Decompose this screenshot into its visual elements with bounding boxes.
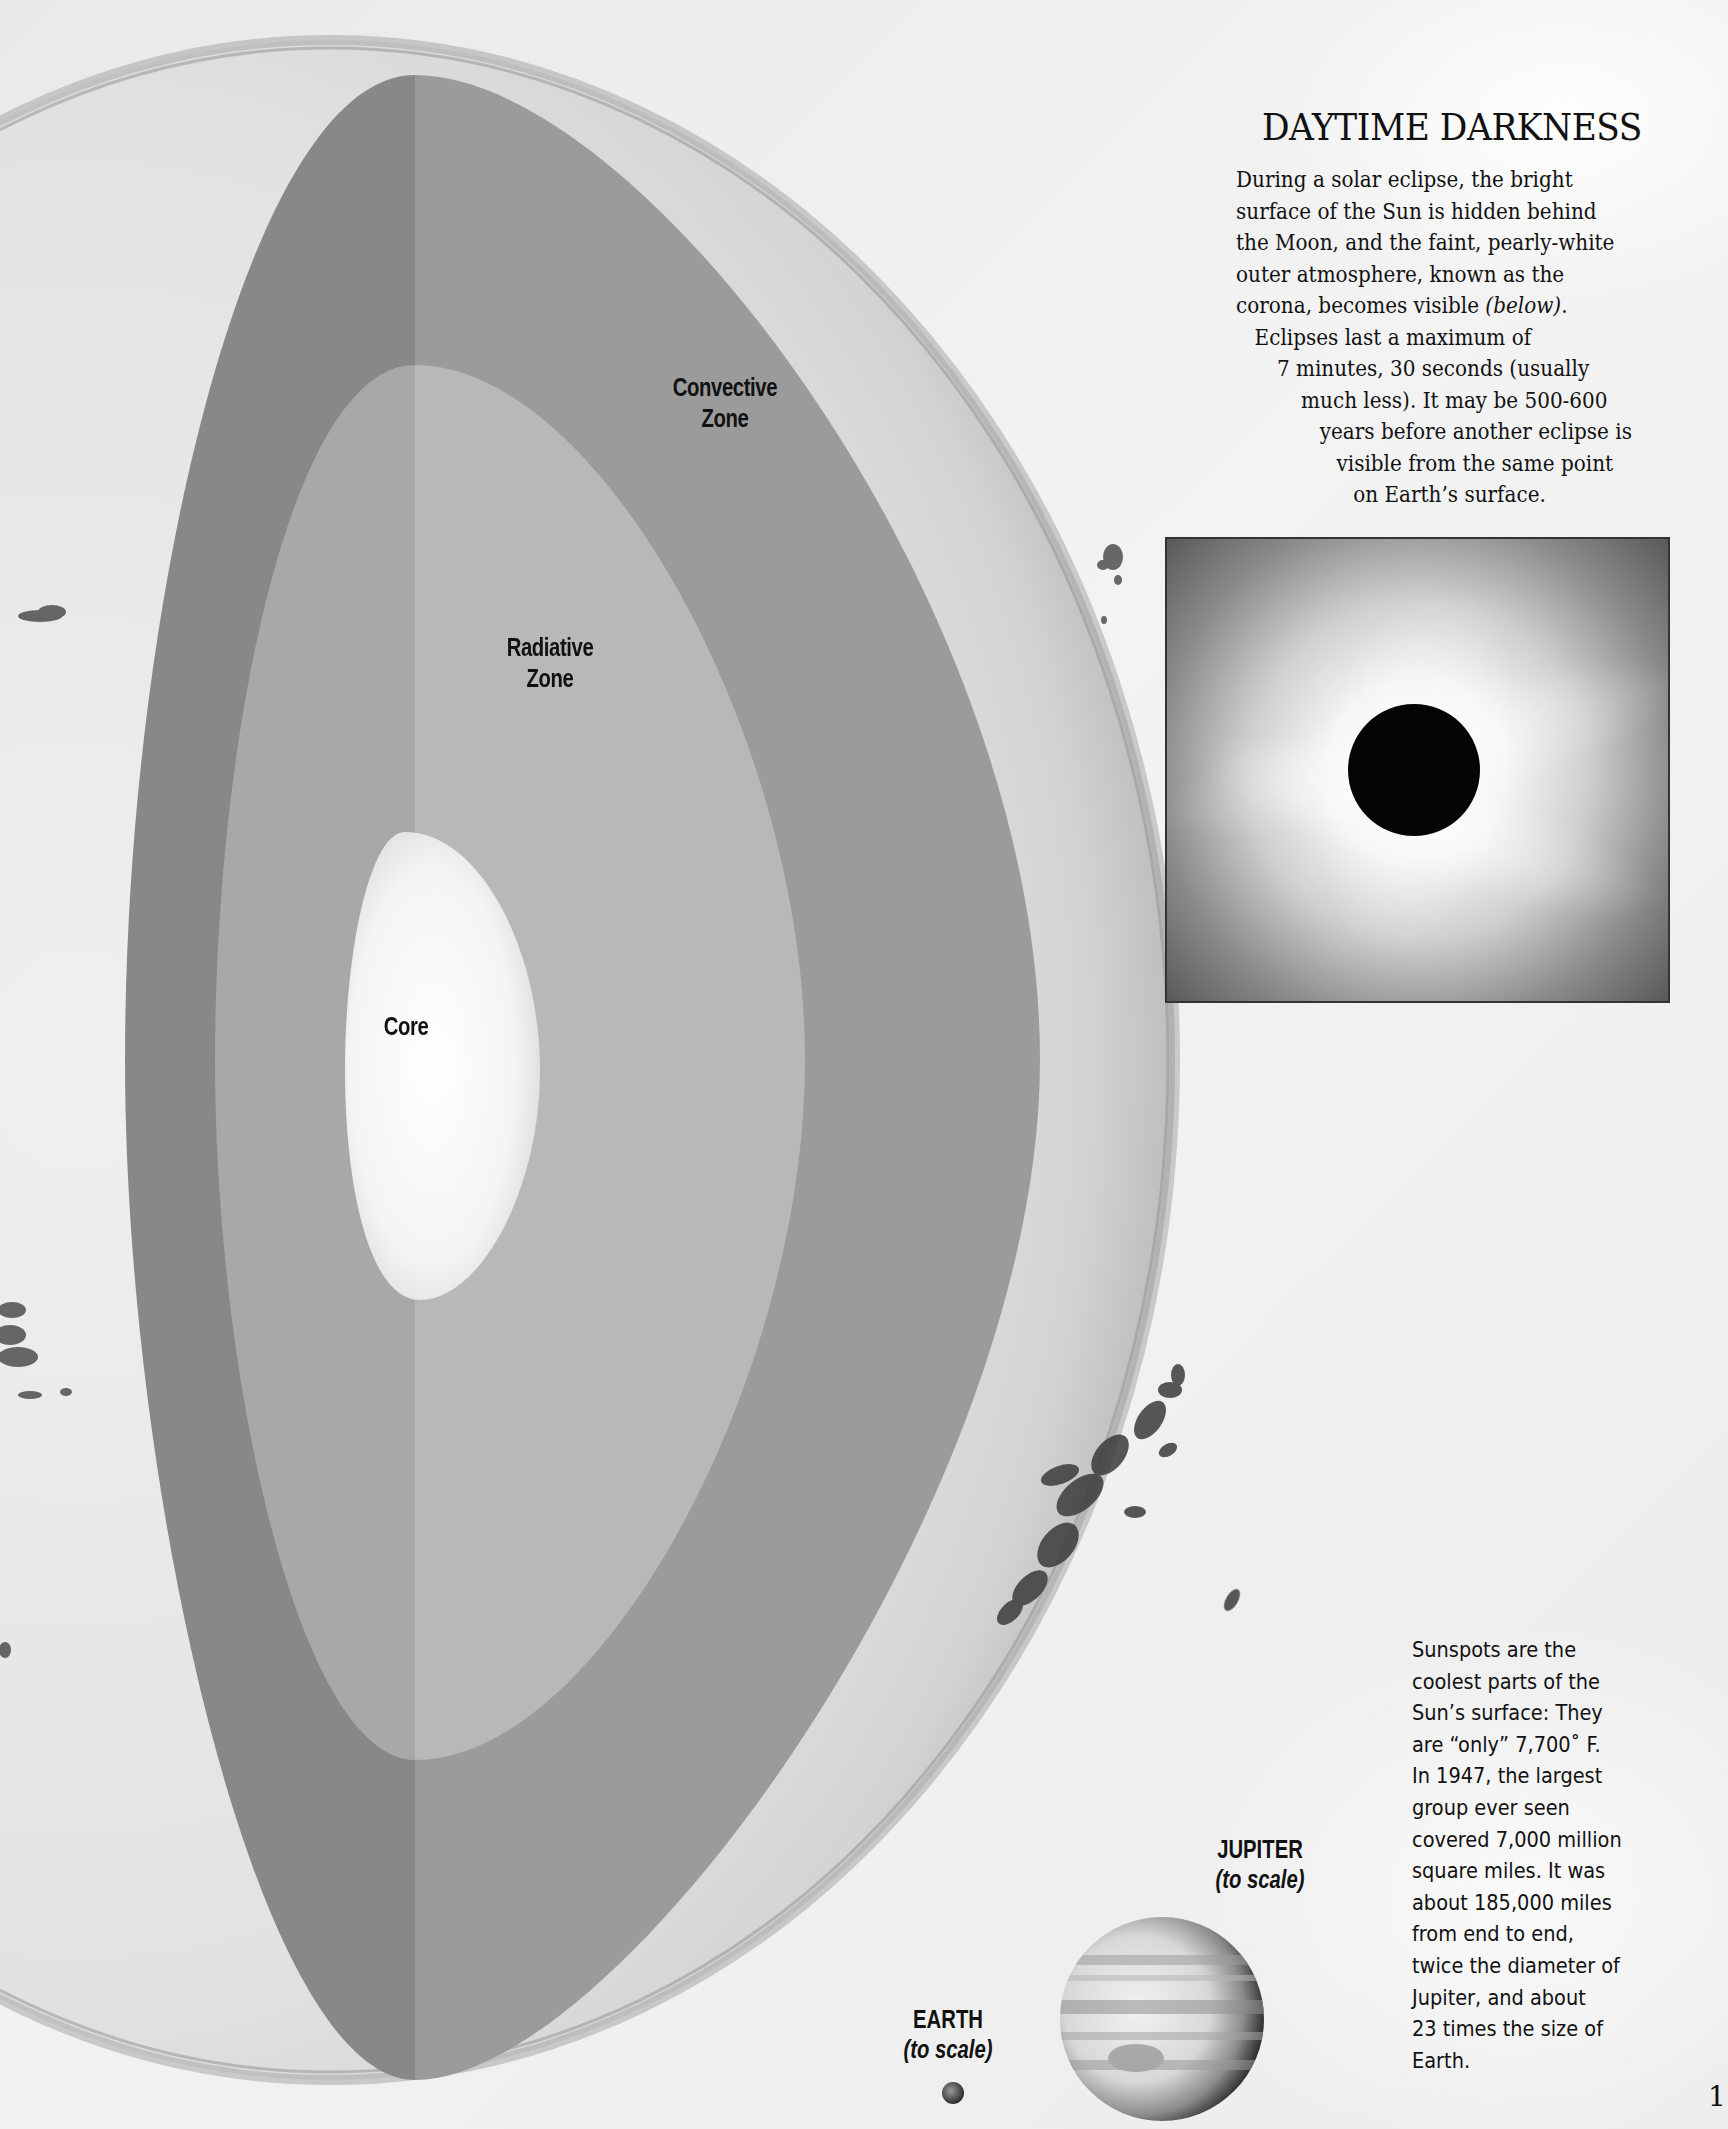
core-label: Core: [375, 1011, 437, 1042]
page-number: 1: [1708, 2080, 1726, 2113]
sidebar-line: corona, becomes visible: [1236, 293, 1479, 318]
jupiter-scale-note: (to scale): [1205, 1864, 1314, 1894]
jupiter-label: JUPITER (to scale): [1205, 1834, 1314, 1894]
earth-scale-note: (to scale): [893, 2034, 1002, 2064]
jupiter-image: [1060, 1917, 1270, 2121]
convective-zone-label: Convective Zone: [659, 372, 792, 434]
sidebar-line: years before another eclipse is: [1236, 416, 1682, 448]
sunspot-caption-line: Sun’s surface: They: [1412, 1697, 1682, 1729]
sunspot-caption-line: In 1947, the largest: [1412, 1760, 1682, 1792]
sunspot-caption-line: group ever seen: [1412, 1792, 1682, 1824]
sunspot-caption-line: are “only” 7,700˚ F.: [1412, 1729, 1682, 1761]
sidebar-line: much less). It may be 500-600: [1236, 385, 1682, 417]
earth-label: EARTH (to scale): [893, 2004, 1002, 2064]
sidebar-line: Eclipses last a maximum of: [1236, 322, 1682, 354]
convective-zone-label-line2: Zone: [659, 403, 792, 434]
earth-image: [942, 2082, 964, 2104]
sunspot-caption-line: Sunspots are the: [1412, 1634, 1682, 1666]
jupiter-name: JUPITER: [1205, 1834, 1314, 1864]
sunspot-caption-line: covered 7,000 million: [1412, 1824, 1682, 1856]
sunspot-caption-line: about 185,000 miles: [1412, 1887, 1682, 1919]
sidebar-paragraph: During a solar eclipse, the bright surfa…: [1236, 164, 1716, 511]
sidebar-line: During a solar eclipse, the bright: [1236, 164, 1682, 196]
radiative-zone-label-line2: Zone: [488, 663, 613, 694]
earth-name: EARTH: [893, 2004, 1002, 2034]
sunspot-caption-line: square miles. It was: [1412, 1855, 1682, 1887]
sidebar-line: on Earth’s surface.: [1236, 479, 1682, 511]
sunspot-caption-line: Earth.: [1412, 2045, 1682, 2077]
below-reference: (below): [1485, 293, 1561, 318]
sidebar-line: surface of the Sun is hidden behind: [1236, 196, 1682, 228]
sidebar-title: DAYTIME DARKNESS: [1262, 106, 1642, 149]
sunspot-caption: Sunspots are the coolest parts of the Su…: [1412, 1634, 1712, 2076]
radiative-zone-label-line1: Radiative: [488, 632, 613, 663]
sidebar-line-with-ref: corona, becomes visible (below).: [1236, 290, 1682, 322]
sidebar-line: outer atmosphere, known as the: [1236, 259, 1682, 291]
sunspot-caption-line: from end to end,: [1412, 1918, 1682, 1950]
sunspot-caption-line: twice the diameter of: [1412, 1950, 1682, 1982]
moon-disc: [1348, 704, 1480, 836]
sunspot-caption-line: coolest parts of the: [1412, 1666, 1682, 1698]
below-reference-suffix: .: [1561, 293, 1567, 318]
eclipse-photo: [1165, 537, 1670, 1003]
core-label-text: Core: [384, 1011, 429, 1041]
sunspot-caption-line: 23 times the size of: [1412, 2013, 1682, 2045]
convective-zone-label-line1: Convective: [659, 372, 792, 403]
sidebar-line: 7 minutes, 30 seconds (usually: [1236, 353, 1682, 385]
sidebar-line: the Moon, and the faint, pearly-white: [1236, 227, 1682, 259]
radiative-zone-label: Radiative Zone: [488, 632, 613, 694]
sunspot-caption-line: Jupiter, and about: [1412, 1982, 1682, 2014]
sidebar-line: visible from the same point: [1236, 448, 1682, 480]
